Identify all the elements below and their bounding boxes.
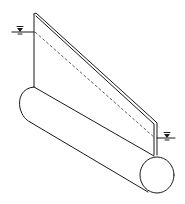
cylinder-top-line bbox=[34, 87, 154, 156]
cylinder-bottom-line bbox=[30, 122, 148, 192]
plate-top-edge bbox=[34, 13, 157, 155]
downstream-water-level-icon bbox=[157, 133, 175, 141]
weir-cylinder-diagram bbox=[0, 0, 185, 204]
cylinder bbox=[20, 87, 174, 193]
upstream-water-level-icon bbox=[12, 27, 34, 35]
cylinder-right-end bbox=[140, 157, 174, 193]
cylinder-left-end bbox=[20, 87, 34, 122]
plate bbox=[34, 13, 157, 155]
